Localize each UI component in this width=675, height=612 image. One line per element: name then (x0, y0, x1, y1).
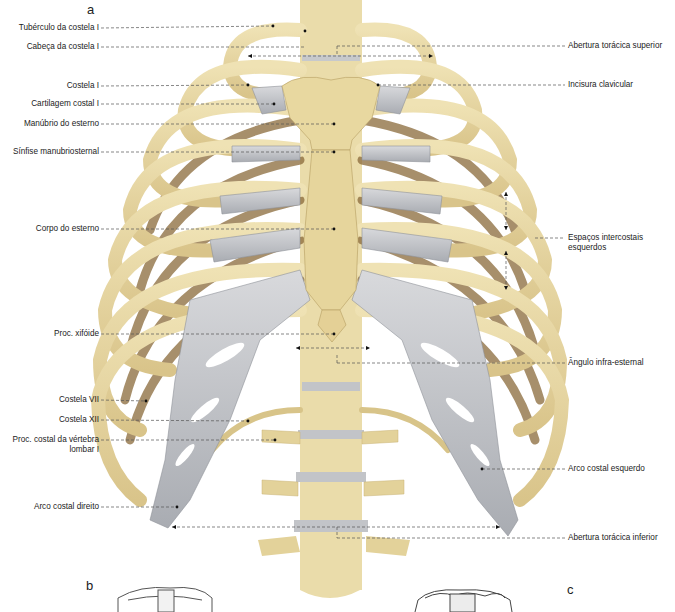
thorax-anatomy-figure: a b c Tubérculo da costela I Cabeça da c… (0, 0, 675, 612)
panel-label-a: a (87, 2, 94, 17)
rib-cage-illustration (0, 0, 675, 612)
label-line-1: Proc. costal da vértebra (13, 435, 99, 445)
panel-label-c: c (567, 582, 574, 597)
label-cartilagem-costal-1: Cartilagem costal I (31, 99, 99, 109)
label-cabeca-costela-1: Cabeça da costela I (27, 42, 99, 52)
label-costela-12: Costela XII (59, 415, 99, 425)
label-arco-costal-esquerdo: Arco costal esquerdo (568, 464, 645, 474)
label-sinfise-manubriosternal: Sínfise manubriosternal (13, 147, 99, 157)
label-abertura-toracica-superior: Abertura torácica superior (568, 41, 662, 51)
label-costela-1: Costela I (67, 81, 99, 91)
panel-label-b: b (86, 578, 93, 593)
sternum-body (304, 150, 358, 310)
manubrium (282, 77, 380, 150)
label-line-2: esquerdos (568, 243, 643, 253)
label-proc-costal-vertebra-lombar-1: Proc. costal da vértebra lombar I (13, 435, 99, 455)
label-costela-7: Costela VII (59, 395, 99, 405)
label-tuberculo-costela-1: Tubérculo da costela I (19, 23, 99, 33)
panel-c-thorax-sketch (415, 590, 512, 612)
label-abertura-toracica-inferior: Abertura torácica inferior (568, 533, 658, 543)
label-line-2: lombar I (13, 445, 99, 455)
label-incisura-clavicular: Incisura clavicular (568, 80, 633, 90)
label-corpo-esterno: Corpo do esterno (36, 224, 99, 234)
label-manubrio-esterno: Manúbrio do esterno (24, 119, 99, 129)
label-angulo-infra-esternal: Ângulo infra-esternal (568, 358, 644, 368)
label-proc-xifoide: Proc. xifóide (54, 329, 99, 339)
panel-b-thorax-sketch (118, 587, 212, 612)
label-line-1: Espaços intercostais (568, 233, 643, 243)
label-arco-costal-direito: Arco costal direito (34, 502, 99, 512)
label-espacos-intercostais-esquerdos: Espaços intercostais esquerdos (568, 233, 643, 253)
